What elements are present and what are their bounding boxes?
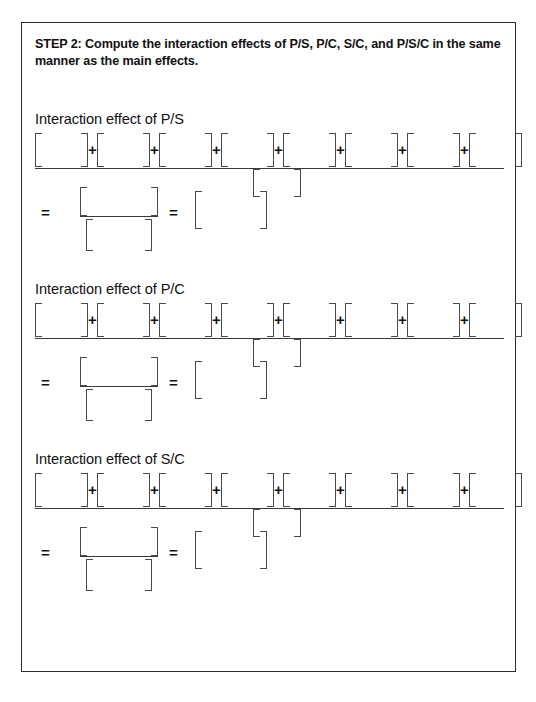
numerator-blank[interactable] — [221, 473, 274, 507]
section-title-sc: Interaction effect of S/C — [35, 451, 505, 467]
equals-sign: = — [169, 205, 178, 220]
plus-operator: + — [88, 473, 97, 507]
plus-operator: + — [336, 133, 345, 167]
plus-operator: + — [274, 303, 283, 337]
numerator-row-sc: +++++++ — [35, 473, 505, 507]
answer-blank[interactable] — [195, 361, 267, 399]
plus-operator: + — [460, 133, 469, 167]
answer-blank[interactable] — [195, 191, 267, 229]
numerator-blank[interactable] — [469, 303, 522, 337]
numerator-blank[interactable] — [159, 303, 212, 337]
plus-operator: + — [460, 303, 469, 337]
mini-denominator-blank[interactable] — [86, 389, 152, 421]
plus-operator: + — [150, 473, 159, 507]
numerator-blank[interactable] — [35, 133, 88, 167]
numerator-blank[interactable] — [469, 133, 522, 167]
plus-operator: + — [88, 303, 97, 337]
numerator-blank[interactable] — [469, 473, 522, 507]
equals-sign: = — [169, 545, 178, 560]
numerator-blank[interactable] — [283, 303, 336, 337]
plus-operator: + — [336, 473, 345, 507]
numerator-blank[interactable] — [159, 473, 212, 507]
numerator-blank[interactable] — [159, 133, 212, 167]
numerator-blank[interactable] — [283, 133, 336, 167]
mini-denominator-blank[interactable] — [86, 219, 152, 251]
numerator-blank[interactable] — [407, 303, 460, 337]
result-row-sc: = = — [35, 509, 505, 595]
interaction-effect-section-pc: Interaction effect of P/C +++++++ = = — [35, 281, 505, 425]
equals-sign: = — [41, 545, 50, 560]
numerator-blank[interactable] — [345, 303, 398, 337]
numerator-blank[interactable] — [221, 133, 274, 167]
numerator-blank[interactable] — [97, 133, 150, 167]
equals-sign: = — [169, 375, 178, 390]
plus-operator: + — [274, 473, 283, 507]
plus-operator: + — [150, 133, 159, 167]
equals-sign: = — [41, 205, 50, 220]
worksheet-frame: STEP 2: Compute the interaction effects … — [21, 22, 516, 672]
section-title-pc: Interaction effect of P/C — [35, 281, 505, 297]
plus-operator: + — [212, 303, 221, 337]
plus-operator: + — [212, 473, 221, 507]
mini-numerator-blank[interactable] — [80, 527, 158, 556]
numerator-blank[interactable] — [97, 303, 150, 337]
plus-operator: + — [398, 303, 407, 337]
numerator-blank[interactable] — [345, 133, 398, 167]
answer-blank[interactable] — [195, 531, 267, 569]
plus-operator: + — [460, 473, 469, 507]
plus-operator: + — [150, 303, 159, 337]
numerator-blank[interactable] — [97, 473, 150, 507]
mini-fraction-sc — [80, 527, 158, 591]
mini-denominator-blank[interactable] — [86, 559, 152, 591]
plus-operator: + — [88, 133, 97, 167]
plus-operator: + — [398, 133, 407, 167]
numerator-blank[interactable] — [407, 473, 460, 507]
section-title-ps: Interaction effect of P/S — [35, 111, 505, 127]
plus-operator: + — [398, 473, 407, 507]
numerator-row-ps: +++++++ — [35, 133, 505, 167]
numerator-blank[interactable] — [283, 473, 336, 507]
numerator-row-pc: +++++++ — [35, 303, 505, 337]
result-row-pc: = = — [35, 339, 505, 425]
mini-numerator-blank[interactable] — [80, 357, 158, 386]
step-heading: STEP 2: Compute the interaction effects … — [35, 36, 505, 71]
numerator-blank[interactable] — [407, 133, 460, 167]
numerator-blank[interactable] — [345, 473, 398, 507]
result-row-ps: = = — [35, 169, 505, 255]
interaction-effect-section-sc: Interaction effect of S/C +++++++ = = — [35, 451, 505, 595]
plus-operator: + — [336, 303, 345, 337]
mini-fraction-ps — [80, 187, 158, 251]
numerator-blank[interactable] — [35, 473, 88, 507]
plus-operator: + — [274, 133, 283, 167]
numerator-blank[interactable] — [35, 303, 88, 337]
numerator-blank[interactable] — [221, 303, 274, 337]
mini-fraction-pc — [80, 357, 158, 421]
plus-operator: + — [212, 133, 221, 167]
equals-sign: = — [41, 375, 50, 390]
mini-numerator-blank[interactable] — [80, 187, 158, 216]
interaction-effect-section-ps: Interaction effect of P/S +++++++ = = — [35, 111, 505, 255]
